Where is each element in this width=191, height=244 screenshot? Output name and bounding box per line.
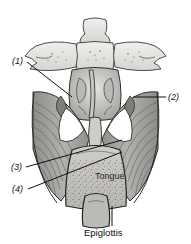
callout-label-3: (3) <box>11 163 22 172</box>
callout-label-2: (2) <box>168 93 179 102</box>
callout-label-1: (1) <box>12 57 23 66</box>
epiglottis-shape <box>82 194 109 229</box>
callout-label-4: (4) <box>12 185 23 194</box>
anatomy-illustration-svg <box>0 0 191 244</box>
anatomy-figure: (1) (2) (3) (4) Tongue Epiglottis <box>0 0 191 244</box>
epiglottis-text-label: Epiglottis <box>84 228 123 238</box>
superior-process <box>80 18 110 43</box>
nasal-choanae-group <box>69 68 121 121</box>
tongue-text-label: Tongue <box>95 172 125 181</box>
